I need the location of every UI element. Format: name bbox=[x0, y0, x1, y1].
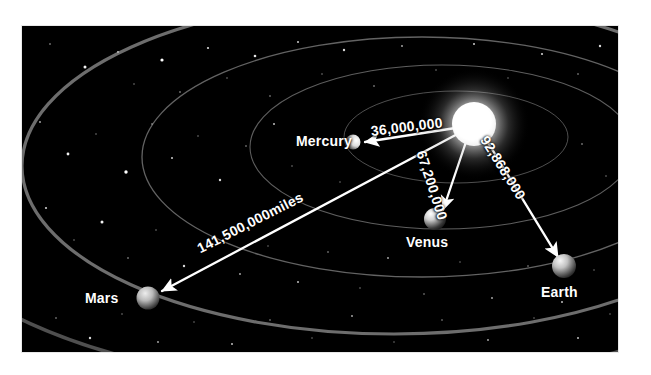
sun-core bbox=[452, 102, 496, 146]
planet-earth-disc bbox=[552, 254, 576, 278]
space-scene-panel: Mercury Venus Earth Mars 36,000,000 67,2… bbox=[22, 26, 618, 352]
space-background bbox=[22, 26, 618, 352]
sun bbox=[418, 68, 530, 180]
scene-svg bbox=[22, 26, 618, 352]
planet-venus-disc bbox=[424, 208, 446, 230]
planet-earth bbox=[552, 254, 576, 278]
planet-venus bbox=[424, 208, 446, 230]
planet-mars-disc bbox=[137, 287, 160, 310]
planet-mars bbox=[137, 287, 160, 310]
figure-root: Mercury Venus Earth Mars 36,000,000 67,2… bbox=[0, 0, 651, 375]
planet-mercury-disc bbox=[346, 135, 361, 150]
planet-mercury bbox=[346, 135, 361, 150]
